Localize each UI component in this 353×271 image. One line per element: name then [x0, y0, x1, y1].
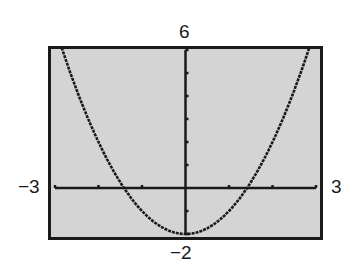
ymin-label: −2 [170, 243, 192, 262]
xmax-label: 3 [331, 177, 342, 196]
calculator-graph-screen [48, 46, 323, 240]
ymax-label: 6 [179, 22, 190, 41]
xmin-label: −3 [18, 177, 40, 196]
